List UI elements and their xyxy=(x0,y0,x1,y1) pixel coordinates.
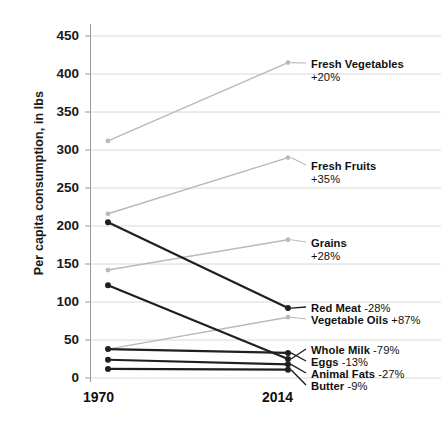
series-label-name: Vegetable Oils xyxy=(311,314,388,326)
series-point[interactable] xyxy=(286,60,291,65)
label-leader-line xyxy=(291,240,306,242)
x-tick-label-left: 1970 xyxy=(83,390,114,404)
series-label-change: -28% xyxy=(361,302,390,314)
series-label-butter[interactable]: Butter -9% xyxy=(311,380,367,393)
y-tick-label: 200 xyxy=(35,219,79,233)
series-line[interactable] xyxy=(108,360,288,365)
series-label-vegetable-oils[interactable]: Vegetable Oils +87% xyxy=(311,314,420,327)
series-label-name: Eggs xyxy=(311,356,339,368)
y-tick-label: 400 xyxy=(35,67,79,81)
slopegraph-chart: Per capita consumption, in lbs 050100150… xyxy=(0,0,441,429)
series-label-change: -27% xyxy=(375,368,404,380)
y-tick-label: 250 xyxy=(35,181,79,195)
series-point[interactable] xyxy=(285,361,291,367)
y-tick-label: 300 xyxy=(35,143,79,157)
y-tick-label: 350 xyxy=(35,105,79,119)
series-point[interactable] xyxy=(285,367,291,373)
series-label-change: +28% xyxy=(311,250,347,263)
series-point[interactable] xyxy=(286,315,291,320)
series-label-change: +20% xyxy=(311,71,404,84)
series-label-change: -79% xyxy=(370,344,399,356)
series-label-name: Butter xyxy=(311,380,344,392)
x-tick-label-right: 2014 xyxy=(262,390,293,404)
series-point[interactable] xyxy=(106,138,111,143)
series-label-name: Grains xyxy=(311,237,347,249)
series-label-name: Whole Milk xyxy=(311,344,370,356)
y-tick-label: 50 xyxy=(35,333,79,347)
series-point[interactable] xyxy=(105,282,111,288)
series-points xyxy=(105,60,291,372)
series-label-change: -13% xyxy=(339,356,368,368)
series-point[interactable] xyxy=(286,155,291,160)
series-point[interactable] xyxy=(285,350,291,356)
leader-lines xyxy=(291,63,306,385)
y-tick-label: 0 xyxy=(35,371,79,385)
label-leader-line xyxy=(291,158,306,165)
series-point[interactable] xyxy=(285,305,291,311)
series-label-name: Fresh Fruits xyxy=(311,160,376,172)
series-label-name: Animal Fats xyxy=(311,368,375,380)
series-point[interactable] xyxy=(106,211,111,216)
label-leader-line xyxy=(291,317,306,319)
series-lines xyxy=(108,63,288,370)
series-point[interactable] xyxy=(286,237,291,242)
series-point[interactable] xyxy=(105,219,111,225)
series-label-name: Red Meat xyxy=(311,302,361,314)
label-leader-line xyxy=(291,307,306,308)
y-tick-label: 100 xyxy=(35,295,79,309)
series-point[interactable] xyxy=(105,357,111,363)
series-label-fresh-vegetables[interactable]: Fresh Vegetables+20% xyxy=(311,58,404,84)
series-point[interactable] xyxy=(105,346,111,352)
series-label-change: -9% xyxy=(344,380,367,392)
series-label-change: +35% xyxy=(311,173,376,186)
y-tick-label: 150 xyxy=(35,257,79,271)
series-label-name: Fresh Vegetables xyxy=(311,58,404,70)
series-point[interactable] xyxy=(105,366,111,372)
series-label-change: +87% xyxy=(388,314,420,326)
y-tick-label: 450 xyxy=(35,29,79,43)
series-line[interactable] xyxy=(108,158,288,214)
series-point[interactable] xyxy=(106,268,111,273)
series-line[interactable] xyxy=(108,369,288,370)
series-label-grains[interactable]: Grains+28% xyxy=(311,237,347,263)
series-point[interactable] xyxy=(285,356,291,362)
series-label-fresh-fruits[interactable]: Fresh Fruits+35% xyxy=(311,160,376,186)
series-line[interactable] xyxy=(108,349,288,353)
